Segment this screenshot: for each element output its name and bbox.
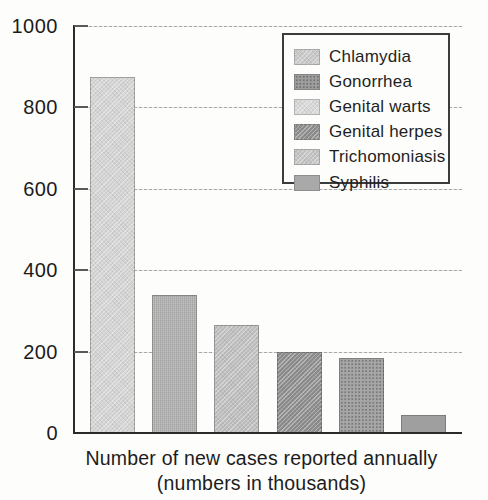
legend-item-label: Genital herpes (329, 122, 442, 142)
caption-line-2: (numbers in thousands) (34, 471, 488, 496)
y-axis-tick-label-200: 200 (0, 340, 58, 363)
legend-item-label: Trichomoniasis (329, 147, 445, 167)
x-axis-line (73, 432, 462, 434)
legend-swatch-chlamydia (294, 49, 320, 65)
legend-rows: Chlamydia Gonorrhea Genital warts Genita… (284, 44, 448, 195)
legend-item-gonorrhea: Gonorrhea (284, 69, 448, 94)
caption-line-1: Number of new cases reported annually (34, 446, 488, 471)
y-axis-tick-label-800: 800 (0, 96, 58, 119)
y-axis-tick-label-0: 0 (0, 422, 58, 445)
y-axis-tick-800 (74, 106, 88, 108)
legend-item-label: Gonorrhea (329, 72, 412, 92)
legend: Chlamydia Gonorrhea Genital warts Genita… (282, 33, 450, 184)
gridline-1000 (74, 26, 462, 27)
legend-item-label: Chlamydia (329, 47, 411, 67)
legend-swatch-gonorrhea (294, 74, 320, 90)
bar-genital-warts (214, 325, 259, 433)
bar-genital-herpes (277, 352, 322, 433)
legend-swatch-syphilis (294, 175, 320, 191)
y-axis-tick-400 (74, 269, 88, 271)
legend-swatch-trichomoniasis (294, 149, 320, 165)
legend-item-label: Genital warts (329, 97, 431, 117)
y-axis-line (73, 25, 75, 434)
legend-item-genital-herpes: Genital herpes (284, 120, 448, 145)
legend-item-syphilis: Syphilis (284, 170, 448, 195)
legend-item-label: Syphilis (329, 173, 389, 193)
y-axis-tick-600 (74, 188, 88, 190)
legend-item-chlamydia: Chlamydia (284, 44, 448, 69)
y-axis-tick-200 (74, 351, 88, 353)
bar-syphilis (401, 415, 446, 433)
y-axis-tick-label-600: 600 (0, 177, 58, 200)
legend-swatch-genital-warts (294, 99, 320, 115)
bar-trichomoniasis (339, 358, 384, 433)
legend-item-genital-warts: Genital warts (284, 94, 448, 119)
legend-item-trichomoniasis: Trichomoniasis (284, 145, 448, 170)
legend-swatch-genital-herpes (294, 124, 320, 140)
y-axis-tick-label-1000: 1000 (0, 15, 58, 38)
chart-caption: Number of new cases reported annually (n… (34, 446, 488, 496)
y-axis-tick-1000 (74, 25, 88, 27)
bar-gonorrhea (152, 295, 197, 433)
std-cases-bar-chart: 02004006008001000 Chlamydia Gonorrhea Ge… (0, 0, 488, 500)
bar-chlamydia (90, 77, 135, 433)
y-axis-tick-label-400: 400 (0, 259, 58, 282)
